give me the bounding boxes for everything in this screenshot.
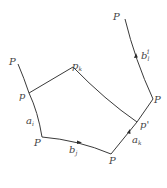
label-p-k: pk [72,60,82,72]
label-top-right-P: P [112,11,120,22]
label-b-j: bj [69,144,77,157]
edge-pk-to-p-prime [73,67,137,122]
label-a-k: ak [132,134,142,146]
pentagon-diagram: P p ai P bj P ak p' P bl1 P pk [0,0,167,188]
label-a-i: ai [26,115,34,127]
label-b-l: bl1 [141,48,150,62]
edge-top-left-curve [18,64,29,93]
label-right-P: P [153,94,161,105]
label-bottom-right-P: P [108,155,116,166]
edge-p-to-pk [29,67,73,93]
label-p-prime: p' [140,119,149,130]
label-bottom-left-P: P [33,137,41,148]
label-top-left-P: P [8,56,16,67]
label-left-p: p [19,90,26,101]
